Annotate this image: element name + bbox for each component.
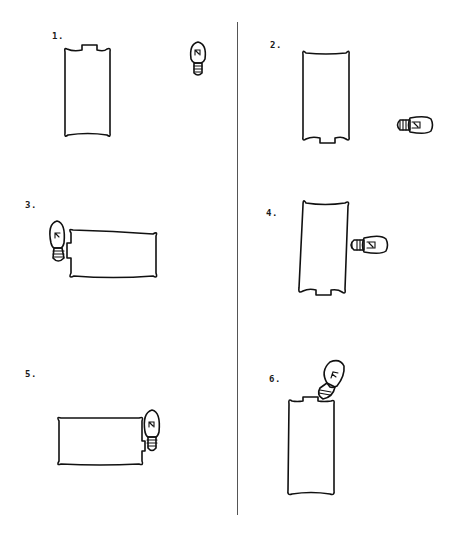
diagram-canvas: 1. 2. 3. <box>0 0 457 535</box>
battery-icon <box>288 397 334 495</box>
panel-6 <box>0 0 457 535</box>
light-bulb-icon <box>319 361 345 399</box>
